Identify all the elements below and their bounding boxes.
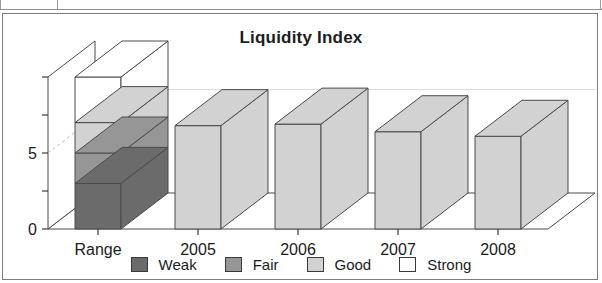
legend-item-fair[interactable]: Fair [225, 256, 279, 273]
bar-2005-front [175, 126, 221, 229]
bar-2007-front [375, 132, 421, 229]
chart-legend: WeakFairGoodStrong [3, 256, 599, 273]
legend-swatch-fair [225, 257, 242, 272]
legend-swatch-weak [131, 257, 148, 272]
legend-label-strong: Strong [427, 256, 471, 273]
bar-2006-front [275, 124, 321, 229]
legend-swatch-strong [399, 257, 416, 272]
table-fragment-above [0, 0, 602, 11]
y-axis-label-5: 5 [28, 145, 37, 162]
legend-item-weak[interactable]: Weak [131, 256, 197, 273]
bar-range-segment-weak-front [75, 183, 121, 229]
legend-item-strong[interactable]: Strong [399, 256, 471, 273]
chart-plot-area: 05Range2005200620072008 [3, 14, 599, 281]
bar-2008-front [475, 136, 521, 229]
legend-label-good: Good [335, 256, 372, 273]
legend-swatch-good [307, 257, 324, 272]
table-fragment-bottom-border [0, 9, 602, 10]
legend-item-good[interactable]: Good [307, 256, 372, 273]
chart-container: Liquidity Index 05Range2005200620072008 … [2, 13, 598, 280]
y-axis-label-0: 0 [28, 221, 37, 238]
legend-label-weak: Weak [159, 256, 197, 273]
legend-label-fair: Fair [253, 256, 279, 273]
